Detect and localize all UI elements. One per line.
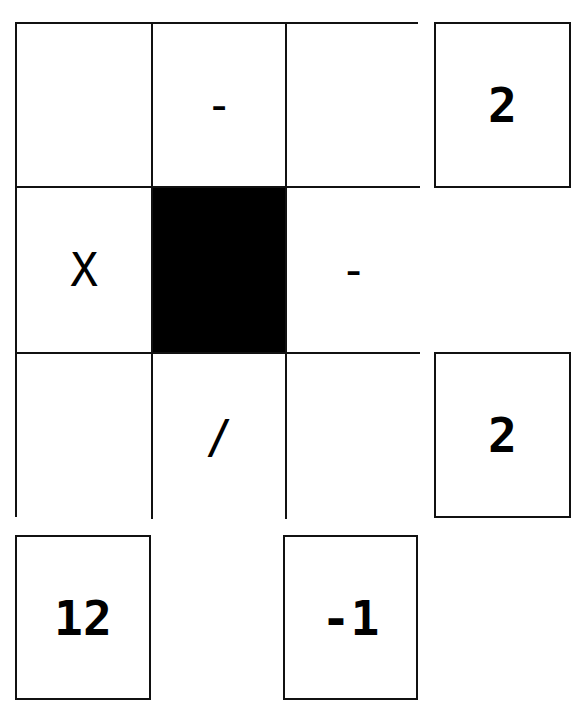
cell-r2-c2[interactable] (287, 354, 420, 519)
blocked-cell-r1-c1 (153, 188, 287, 354)
row-result-2: 2 (434, 352, 571, 518)
cell-r0-c0[interactable] (17, 24, 153, 188)
column-result-0: 12 (15, 535, 151, 700)
operator-cell-r2-c1: / (153, 354, 287, 519)
operator-cell-r1-c2: - (287, 188, 420, 354)
row-result-0: 2 (434, 22, 571, 188)
column-result-2: -1 (283, 535, 418, 700)
cell-r0-c2[interactable] (287, 24, 420, 188)
puzzle-grid: - X - / (15, 22, 418, 517)
operator-cell-r1-c0: X (17, 188, 153, 354)
operator-cell-r0-c1: - (153, 24, 287, 188)
cell-r2-c0[interactable] (17, 354, 153, 519)
